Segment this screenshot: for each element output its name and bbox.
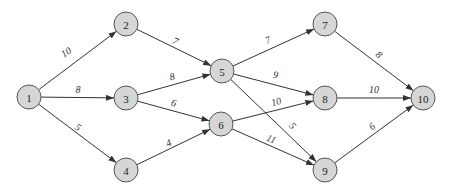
arrow-icon [137,29,211,65]
node-6: 6 [209,112,233,136]
node-label: 5 [219,66,225,78]
node-label: 10 [418,93,430,105]
node-3: 3 [114,86,138,110]
node-1: 1 [17,85,41,109]
edge-weight-label: 5 [73,121,83,133]
edge-weight-label: 11 [265,132,278,146]
edge-weight-label: 6 [170,97,178,109]
node-4: 4 [114,158,138,182]
edge-weight-label: 8 [374,48,385,60]
nodes-layer: 12345678910 [17,12,435,182]
edge-weight-label: 8 [76,84,81,95]
network-diagram: 1085786479105118106 12345678910 [0,0,451,196]
edge-7-10 [335,31,414,91]
arrow-icon [39,104,117,163]
edge-1-3 [41,97,114,98]
arrow-icon [335,105,414,163]
edge-1-4 [39,104,117,163]
node-7: 7 [313,12,337,36]
arrow-icon [335,31,414,91]
edge-weight-label: 7 [263,33,273,45]
arrow-icon [137,129,210,165]
arrow-icon [39,31,117,90]
arrow-icon [233,29,314,66]
node-8: 8 [313,86,337,110]
node-label: 2 [123,19,129,31]
node-label: 3 [123,93,129,105]
edge-5-9 [231,79,317,161]
edge-5-7 [233,29,314,66]
edge-weight-label: 8 [168,71,176,83]
node-label: 7 [322,19,328,31]
node-label: 1 [26,92,32,104]
edge-1-2 [39,31,117,90]
edge-weight-label: 9 [272,69,279,81]
edge-4-6 [137,129,210,165]
edge-weight-label: 6 [366,120,377,132]
node-label: 8 [322,93,328,105]
edge-weight-label: 5 [287,120,299,131]
arrow-icon [231,79,317,161]
node-label: 4 [123,165,129,177]
node-5: 5 [210,59,234,83]
edge-9-10 [335,105,414,163]
edge-weight-label: 10 [270,95,283,108]
node-10: 10 [411,86,435,110]
edge-weight-label: 7 [171,35,181,48]
edge-weight-label: 4 [164,137,173,149]
graph-canvas: 1085786479105118106 12345678910 [0,0,451,196]
edge-2-5 [137,29,211,65]
edge-weight-label: 10 [59,45,73,60]
node-2: 2 [114,12,138,36]
node-9: 9 [313,158,337,182]
edges-layer [39,29,414,165]
arrow-icon [41,97,114,98]
node-label: 9 [322,165,328,177]
node-label: 6 [218,119,224,131]
edge-weight-label: 10 [369,84,379,95]
